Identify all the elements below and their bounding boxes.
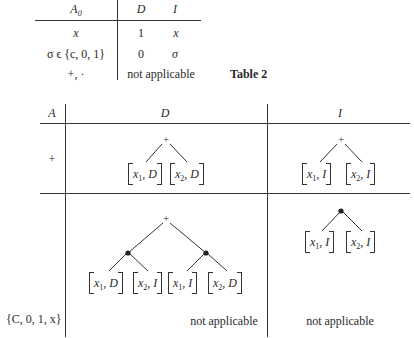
leaf-x1-d: x1, D [89, 272, 123, 294]
svg-text:+: + [163, 133, 169, 145]
leaf-x2-i: x2, I [346, 163, 375, 185]
product-node-icon [203, 250, 208, 255]
svg-text:+: + [163, 212, 169, 224]
product-node-icon [338, 208, 343, 213]
leaf-x2-d: x2, D [208, 272, 242, 294]
leaf-x2-i: x2, I [133, 272, 162, 294]
leaf-x1-d: x1, D [128, 163, 162, 185]
svg-text:+: + [338, 133, 344, 145]
leaf-x2-d: x2, D [170, 163, 204, 185]
leaf-x1-i: x1, I [302, 163, 331, 185]
product-node-icon [125, 250, 130, 255]
leaf-x1-i: x1, I [305, 231, 334, 253]
leaf-x1-i: x1, I [168, 272, 197, 294]
leaf-x2-i: x2, I [346, 231, 375, 253]
